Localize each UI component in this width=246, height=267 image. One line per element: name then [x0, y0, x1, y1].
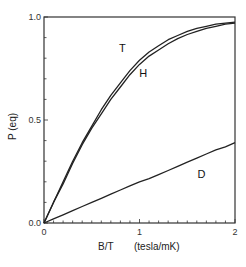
- series-line-d: [44, 143, 235, 223]
- plot-area: 0120.00.51.0THD: [28, 12, 237, 237]
- plot-frame: [44, 17, 235, 223]
- x-tick-label: 0: [41, 227, 46, 237]
- y-tick-label: 1.0: [28, 12, 41, 22]
- curve-label-h: H: [139, 67, 147, 79]
- y-tick-label: 0.5: [28, 115, 41, 125]
- y-tick-label: 0.0: [28, 218, 41, 228]
- series-line-h: [44, 23, 235, 223]
- chart: 0120.00.51.0THD B/T (tesla/mK) P (eq): [0, 0, 246, 267]
- curve-label-t: T: [119, 42, 126, 54]
- x-tick-label: 1: [137, 227, 142, 237]
- curve-label-d: D: [198, 168, 206, 180]
- x-tick-label: 2: [232, 227, 237, 237]
- x-axis-unit: (tesla/mK): [134, 241, 180, 252]
- series-line-t: [44, 22, 235, 223]
- x-axis-title: B/T: [98, 241, 114, 252]
- y-axis-title: P (eq): [7, 113, 18, 140]
